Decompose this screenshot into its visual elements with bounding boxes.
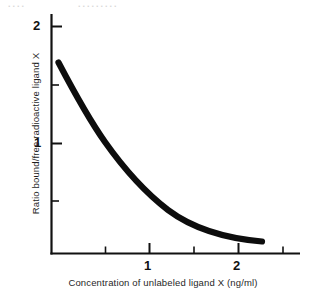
chart-figure: ............. 2 1 1 2 Ratio bound/free r… bbox=[0, 0, 310, 294]
y-axis-title: Ratio bound/free radioactive ligand X bbox=[30, 19, 41, 249]
chart-plot-area bbox=[0, 0, 310, 294]
data-curve-bound-free-ratio bbox=[59, 63, 263, 242]
page-bleed-artifact-right: ......... bbox=[78, 0, 119, 9]
x-axis-tick-label-2: 2 bbox=[233, 259, 240, 272]
x-axis-title: Concentration of unlabeled ligand X (ng/… bbox=[36, 277, 290, 288]
x-axis-tick-label-1: 1 bbox=[144, 259, 151, 272]
page-bleed-artifact: ............. bbox=[8, 0, 302, 9]
page-bleed-artifact-left: .... bbox=[8, 0, 26, 9]
